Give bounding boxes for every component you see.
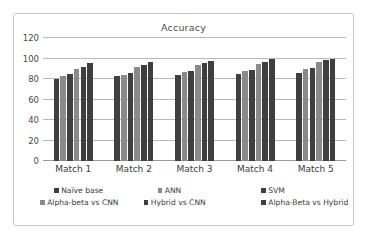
legend-swatch-icon [54, 188, 59, 193]
bar[interactable] [60, 76, 66, 161]
bar-slot [175, 75, 181, 161]
bar[interactable] [256, 64, 262, 161]
bar-slot [134, 67, 140, 161]
bar[interactable] [195, 65, 201, 161]
bar-slot [236, 74, 242, 161]
bar-slot [310, 68, 316, 161]
legend-row-bottom: Alpha-beta vs CNNHybrid vs CNNAlpha-Beta… [32, 198, 343, 207]
bar[interactable] [202, 63, 208, 161]
y-axis-tick-label: 80 [28, 74, 39, 84]
legend-item[interactable]: SVM [239, 186, 343, 195]
x-axis-category-label: Match 2 [104, 164, 165, 174]
bar-slot [316, 62, 322, 161]
legend-item-label: Alpha-beta vs CNN [47, 198, 118, 207]
bar[interactable] [87, 63, 93, 161]
legend-item[interactable]: Naïve base [32, 186, 136, 195]
x-axis-category-label: Match 3 [164, 164, 225, 174]
bar[interactable] [262, 62, 268, 161]
y-axis-tick-label: 40 [28, 115, 39, 125]
bar-slot [182, 72, 188, 161]
bar-slot [195, 65, 201, 161]
bar-slot [148, 62, 154, 161]
bar[interactable] [54, 79, 60, 161]
legend-item-label: SVM [268, 186, 285, 195]
bar[interactable] [175, 75, 181, 161]
bar-slot [128, 73, 134, 161]
bar-slot [330, 59, 336, 162]
legend-item[interactable]: Alpha-Beta vs Hybrid [239, 198, 343, 207]
legend-swatch-icon [261, 188, 266, 193]
bar[interactable] [188, 71, 194, 161]
chart-legend: Naïve baseANNSVM Alpha-beta vs CNNHybrid… [32, 186, 343, 210]
y-axis-tick-label: 60 [28, 95, 39, 105]
bar[interactable] [121, 75, 127, 161]
bar-slot [67, 74, 73, 161]
bar-slot [188, 71, 194, 161]
y-axis-tick-label: 100 [23, 54, 39, 64]
bar-slot [114, 76, 120, 161]
bar[interactable] [74, 69, 80, 161]
bar-slot [141, 65, 147, 161]
y-axis-tick-label: 120 [23, 33, 39, 43]
legend-swatch-icon [40, 200, 45, 205]
x-axis-category-label: Match 4 [225, 164, 286, 174]
bar[interactable] [114, 76, 120, 161]
legend-item[interactable]: Hybrid vs CNN [136, 198, 240, 207]
bar-slot [242, 71, 248, 161]
x-axis-category-labels: Match 1Match 2Match 3Match 4Match 5 [43, 164, 346, 174]
bar-slot [208, 61, 214, 161]
bar-slot [323, 60, 329, 161]
bar[interactable] [296, 73, 302, 161]
bar-group [43, 38, 104, 161]
bar[interactable] [310, 68, 316, 161]
bar[interactable] [134, 67, 140, 161]
bar-slot [54, 79, 60, 161]
legend-item[interactable]: ANN [136, 186, 240, 195]
bar[interactable] [128, 73, 134, 161]
bar[interactable] [249, 70, 255, 161]
x-axis-category-label: Match 1 [43, 164, 104, 174]
bar-group [285, 38, 346, 161]
bar[interactable] [323, 60, 329, 161]
y-axis-tick-label: 0 [34, 156, 39, 166]
legend-swatch-icon [158, 188, 163, 193]
bar[interactable] [67, 74, 73, 161]
plot-area: 020406080100120 [43, 38, 346, 161]
bar-slot [269, 59, 275, 162]
chart-card: Accuracy 020406080100120 Match 1Match 2M… [13, 13, 354, 226]
legend-swatch-icon [261, 200, 266, 205]
bar-slot [256, 64, 262, 161]
bar-slot [249, 70, 255, 161]
legend-item[interactable]: Alpha-beta vs CNN [32, 198, 136, 207]
bar-slot [202, 63, 208, 161]
bar[interactable] [269, 59, 275, 162]
legend-item-label: Naïve base [61, 186, 103, 195]
y-axis-tick-label: 20 [28, 136, 39, 146]
chart-title: Accuracy [14, 22, 353, 33]
legend-item-label: Hybrid vs CNN [151, 198, 206, 207]
bar-slot [303, 69, 309, 161]
bar[interactable] [208, 61, 214, 161]
bar-slot [262, 62, 268, 161]
bar[interactable] [81, 67, 87, 161]
bar-slot [74, 69, 80, 161]
bar[interactable] [242, 71, 248, 161]
bars-layer [43, 38, 346, 161]
bar-group [164, 38, 225, 161]
bar[interactable] [303, 69, 309, 161]
bar[interactable] [182, 72, 188, 161]
bar-group [225, 38, 286, 161]
bar[interactable] [316, 62, 322, 161]
bar[interactable] [141, 65, 147, 161]
bar-slot [121, 75, 127, 161]
x-axis-category-label: Match 5 [285, 164, 346, 174]
bar-slot [87, 63, 93, 161]
bar[interactable] [330, 59, 336, 162]
legend-item-label: Alpha-Beta vs Hybrid [268, 198, 348, 207]
bar[interactable] [236, 74, 242, 161]
legend-item-label: ANN [165, 186, 182, 195]
bar[interactable] [148, 62, 154, 161]
bar-group [104, 38, 165, 161]
legend-swatch-icon [144, 200, 149, 205]
legend-row-top: Naïve baseANNSVM [32, 186, 343, 195]
